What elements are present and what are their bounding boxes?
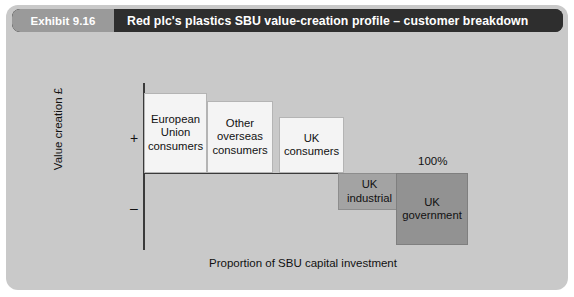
bar-uk-industrial: UK industrial	[338, 173, 401, 210]
exhibit-header: Exhibit 9.16 Red plc's plastics SBU valu…	[12, 9, 563, 32]
bar-label-other-overseas-consumers: Other overseas consumers	[208, 117, 272, 157]
x-axis-end-label: 100%	[418, 155, 447, 167]
bar-uk-consumers: UK consumers	[279, 117, 344, 173]
exhibit-title: Red plc's plastics SBU value-creation pr…	[114, 9, 563, 32]
bar-label-uk-industrial: UK industrial	[339, 178, 400, 205]
x-axis-label: Proportion of SBU capital investment	[143, 257, 463, 269]
axis-negative-marker: –	[130, 201, 138, 215]
exhibit-number-badge: Exhibit 9.16	[12, 9, 114, 32]
bar-label-european-union-consumers: European Union consumers	[145, 113, 206, 153]
bar-european-union-consumers: European Union consumers	[144, 93, 207, 173]
bar-label-uk-government: UK government	[397, 196, 467, 223]
bar-other-overseas-consumers: Other overseas consumers	[207, 101, 273, 173]
exhibit-panel: Exhibit 9.16 Red plc's plastics SBU valu…	[6, 5, 568, 290]
bar-uk-government: UK government	[396, 173, 468, 245]
y-axis-label: Value creation £	[52, 54, 64, 204]
axis-positive-marker: +	[130, 131, 138, 145]
bar-label-uk-consumers: UK consumers	[280, 132, 343, 159]
chart-plot-area: Value creation £ + – European Union cons…	[6, 35, 568, 290]
